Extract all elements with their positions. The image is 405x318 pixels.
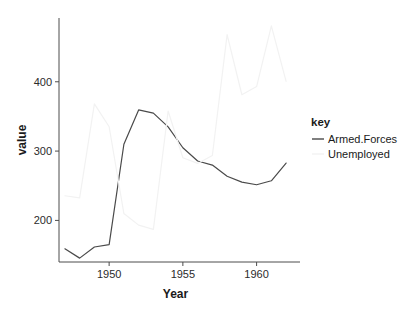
y-axis-title: value — [15, 124, 29, 155]
legend-label-armed-forces: Armed.Forces — [328, 133, 398, 145]
x-tick-label: 1950 — [97, 268, 121, 280]
y-tick-label: 300 — [34, 145, 52, 157]
x-axis-title: Year — [163, 287, 189, 301]
x-tick-label: 1955 — [171, 268, 195, 280]
x-tick-label: 1960 — [244, 268, 268, 280]
y-tick-label: 200 — [34, 214, 52, 226]
legend-title: key — [311, 116, 331, 128]
chart-container: 200300400195019551960Yearvalue keyArmed.… — [0, 0, 405, 318]
legend-label-unemployed: Unemployed — [328, 148, 390, 160]
y-tick-label: 400 — [34, 76, 52, 88]
line-chart: 200300400195019551960Yearvalue keyArmed.… — [0, 0, 405, 318]
